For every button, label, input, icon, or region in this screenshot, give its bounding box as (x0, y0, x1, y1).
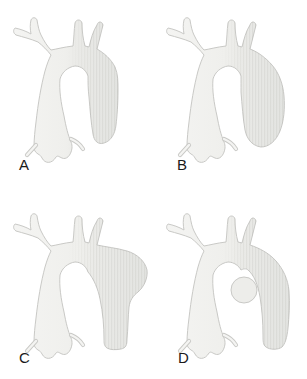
aorta-group (14, 214, 148, 359)
ductus-knob (231, 277, 257, 303)
aortic-arch-figure: ABCD (0, 0, 307, 379)
aortic-arch-dilated-descending-drawing (153, 0, 306, 189)
panel-a: A (0, 0, 153, 189)
aorta-group (14, 18, 118, 163)
aorta-group (167, 18, 285, 163)
panel-label-d: D (178, 350, 189, 365)
panel-b: B (153, 0, 307, 189)
panel-c: C (0, 189, 153, 379)
aorta-shading-texture (14, 18, 118, 163)
panel-label-b: B (177, 157, 187, 172)
aorta-shading-texture (14, 214, 148, 359)
panel-label-a: A (19, 157, 29, 172)
panel-label-c: C (19, 350, 30, 365)
aortic-arch-round-knob-inner-drawing (153, 189, 306, 378)
panel-d: D (153, 189, 307, 379)
aorta-group (167, 214, 290, 359)
